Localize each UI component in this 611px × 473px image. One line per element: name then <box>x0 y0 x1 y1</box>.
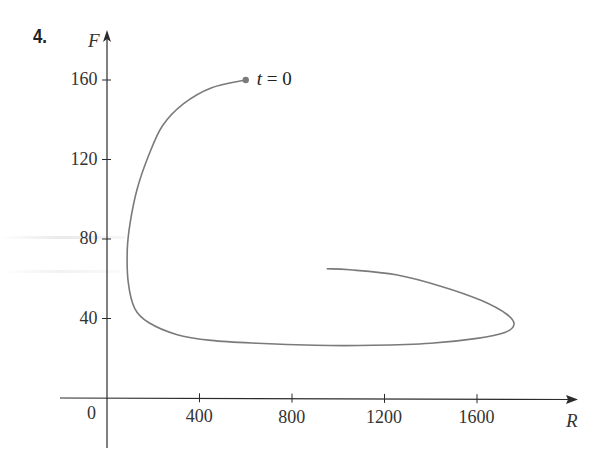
x-tick-label: 1600 <box>459 407 495 428</box>
x-tick-label: 800 <box>278 407 305 428</box>
y-tick-label: 80 <box>80 228 98 249</box>
origin-label: 0 <box>87 403 96 424</box>
equals-zero: = 0 <box>262 68 292 89</box>
t-equals-zero-label: t = 0 <box>257 68 292 90</box>
x-axis-line <box>60 398 572 400</box>
axes <box>60 30 578 448</box>
x-tick-label: 400 <box>186 406 213 427</box>
y-tick-label: 40 <box>80 308 98 329</box>
y-tick-label: 120 <box>70 149 97 170</box>
x-axis-label: R <box>566 410 578 432</box>
y-tick-label: 160 <box>70 69 97 90</box>
start-point-marker <box>243 77 249 83</box>
x-tick-label: 1200 <box>366 407 402 428</box>
trajectory-curve <box>127 80 514 346</box>
y-axis-label: F <box>88 30 100 52</box>
